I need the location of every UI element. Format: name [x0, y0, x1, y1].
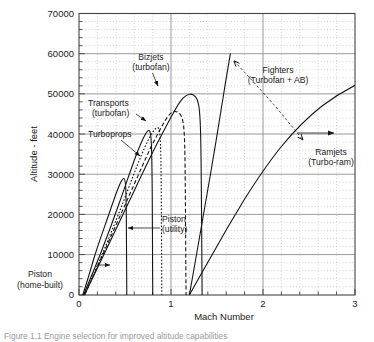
annotation-transports-line2: (turbofan) [92, 108, 129, 118]
y-tick-label: 30000 [48, 169, 74, 180]
y-tick-label: 20000 [48, 209, 74, 220]
annotation-piston-utility-line2: (utility) [162, 224, 187, 234]
y-axis-title: Altitude - feet [28, 126, 39, 182]
annotation-bizjets-line1: Bizjets [138, 52, 163, 62]
annotation-fighters-line2: (Turbofan + AB) [248, 75, 309, 85]
annotation-fighters-line1: Fighters [262, 65, 293, 75]
annotation-ramjets-line1: Ramjets [315, 147, 347, 157]
annotation-piston-home-built-line1: Piston [28, 269, 52, 279]
x-tick-label: 3 [352, 298, 357, 309]
y-tick-label: 70000 [48, 8, 74, 19]
figure-engine-altitude-chart: 70000 60000 50000 40000 30000 20000 1000… [0, 0, 374, 342]
y-tick-label: 50000 [48, 88, 74, 99]
x-tick-label: 1 [168, 298, 173, 309]
chart-canvas: 70000 60000 50000 40000 30000 20000 1000… [0, 0, 374, 342]
figure-caption: Figure 1.1 Engine selection for improved… [4, 331, 227, 341]
annotation-piston-utility-line1: Piston [162, 214, 186, 224]
annotation-bizjets-line2: (turbofan) [132, 62, 169, 72]
annotation-transports-line1: Transports [88, 98, 129, 108]
y-tick-label: 60000 [48, 48, 74, 59]
y-tick-label: 10000 [48, 249, 74, 260]
annotation-piston-home-built-line2: (home-built) [17, 280, 63, 290]
y-tick-label: 0 [69, 289, 74, 300]
annotation-turboprops-line1: Turboprops [88, 129, 132, 139]
x-tick-label: 0 [76, 298, 81, 309]
annotation-ramjets-line2: (Turbo-ram) [308, 157, 354, 167]
y-tick-label: 40000 [48, 129, 74, 140]
x-axis-title: Mach Number [194, 311, 254, 322]
x-tick-label: 2 [260, 298, 265, 309]
